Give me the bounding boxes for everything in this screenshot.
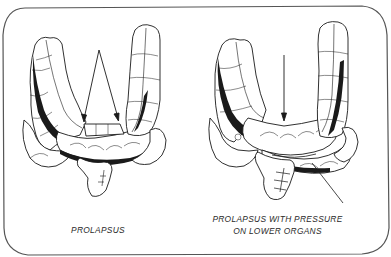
left-colon-drawing (23, 25, 166, 197)
caption-prolapsus-with-pressure: PROLAPSUS WITH PRESSURE ON LOWER ORGANS (200, 213, 355, 237)
caption-line-1: PROLAPSUS WITH PRESSURE (200, 213, 355, 225)
left-pointer-arrows (82, 50, 120, 122)
right-pointer-arrow (282, 55, 287, 121)
right-colon-drawing (209, 22, 358, 200)
caption-line-2: ON LOWER ORGANS (200, 225, 355, 237)
caption-prolapsus: PROLAPSUS (48, 224, 148, 236)
